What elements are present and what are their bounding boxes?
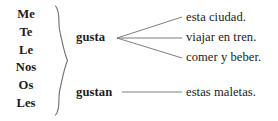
- complement-phrase: viajar en tren.: [186, 31, 256, 44]
- connector-line-gusta-1: [117, 17, 182, 38]
- pronoun-item: Nos: [0, 61, 52, 74]
- verb-gustan: gustan: [76, 86, 112, 99]
- curly-brace-icon: [52, 0, 72, 121]
- pronoun-item: Te: [0, 26, 52, 39]
- pronoun-item: Le: [0, 44, 52, 57]
- connector-line-gusta-3: [117, 38, 182, 58]
- pronoun-column: Me Te Le Nos Os Les: [0, 0, 52, 121]
- verb-gusta: gusta: [76, 31, 105, 44]
- gustar-grammar-diagram: Me Te Le Nos Os Les gusta gustan esta ci…: [0, 0, 278, 121]
- pronoun-item: Les: [0, 97, 52, 110]
- complement-phrase: comer y beber.: [186, 51, 261, 64]
- complement-phrase: esta ciudad.: [186, 11, 246, 24]
- complement-phrase: estas maletas.: [186, 86, 256, 99]
- pronoun-item: Me: [0, 8, 52, 21]
- pronoun-item: Os: [0, 79, 52, 92]
